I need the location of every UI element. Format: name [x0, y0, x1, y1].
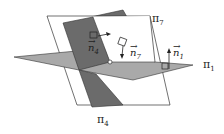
arrow-n1-icon [167, 48, 171, 53]
planes-diagram [0, 0, 224, 134]
label-n1: →n1 [173, 48, 184, 61]
intersection-point [108, 60, 112, 64]
label-n7: →n7 [130, 48, 141, 61]
label-n4: →n4 [88, 43, 99, 56]
label-pi7: π7 [152, 13, 164, 27]
label-pi1: π1 [203, 59, 215, 73]
label-pi4: π4 [97, 114, 109, 128]
